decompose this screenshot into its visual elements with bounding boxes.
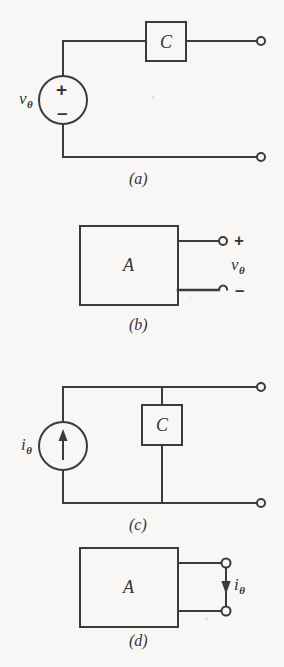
panel-a-box-c-label: C xyxy=(160,32,172,53)
panel-a-caption: (a) xyxy=(129,170,148,188)
panel-d-box-a-label: A xyxy=(123,577,134,598)
panel-a-plus-sign: + xyxy=(56,80,67,99)
panel-a-graphics xyxy=(39,22,265,161)
panel-d-graphics xyxy=(80,548,231,627)
panel-b-terminal-minus xyxy=(219,286,227,291)
panel-a-minus-sign: – xyxy=(57,103,68,122)
panel-b-terminal-plus xyxy=(219,237,227,245)
scan-speck xyxy=(152,96,155,99)
panel-d-terminal-bottom xyxy=(222,607,231,616)
panel-c-graphics xyxy=(39,383,265,507)
panel-d-port-current-label: iθ xyxy=(234,575,245,596)
panel-c-caption: (c) xyxy=(129,516,147,534)
panel-d-terminal-top xyxy=(222,559,231,568)
panel-d-caption: (d) xyxy=(129,632,148,650)
panel-a-source-label: vθ xyxy=(19,89,33,110)
panel-a-terminal-top xyxy=(257,37,265,45)
scan-speck xyxy=(190,297,192,299)
panel-d-port-arrow-head xyxy=(221,581,230,594)
panel-b-box-a-label: A xyxy=(123,255,134,276)
panel-b-minus-sign: – xyxy=(235,282,244,299)
panel-b-caption: (b) xyxy=(129,316,148,334)
panel-c-terminal-bottom xyxy=(257,499,265,507)
panel-b-plus-sign: + xyxy=(234,232,244,249)
panel-c-box-c-label: C xyxy=(156,415,168,436)
panel-c-source-arrow-head xyxy=(59,429,68,441)
circuit-figure-sheet: vθ + – C (a) A + – vθ (b) iθ C (c) A iθ … xyxy=(0,0,284,667)
panel-b-graphics xyxy=(80,226,227,305)
panel-c-terminal-top xyxy=(257,383,265,391)
panel-c-source-label: iθ xyxy=(21,435,32,456)
panel-a-terminal-bottom xyxy=(257,153,265,161)
scan-speck xyxy=(205,617,208,620)
panel-b-port-voltage-label: vθ xyxy=(231,255,245,276)
